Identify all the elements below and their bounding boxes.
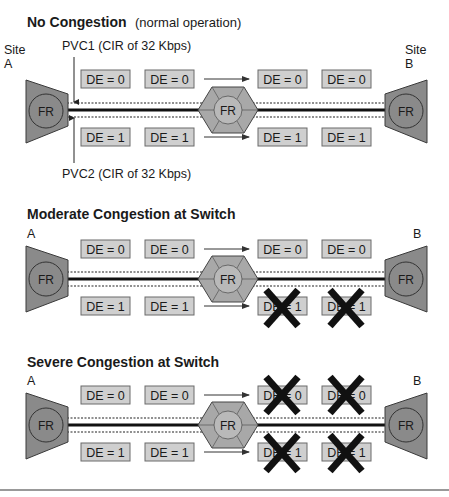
frame-de1: DE = 1 <box>81 297 130 315</box>
frame-de1: DE = 1 <box>145 128 194 146</box>
frame-de0: DE = 0 <box>322 240 371 258</box>
site-b-letter: B <box>413 374 421 388</box>
site-a-letter: A <box>27 227 36 241</box>
svg-text:DE = 0: DE = 0 <box>86 389 125 403</box>
frame-de0: DE = 0 <box>145 240 194 258</box>
svg-text:FR: FR <box>398 419 414 433</box>
frame-de1-dropped: DE = 1 <box>322 290 371 326</box>
svg-text:FR: FR <box>38 419 54 433</box>
router-site-b: FR <box>385 246 427 312</box>
svg-text:DE = 0: DE = 0 <box>150 243 189 257</box>
site-a-label: Site <box>4 43 26 57</box>
site-b-label: Site <box>405 43 427 57</box>
svg-text:DE = 0: DE = 0 <box>86 73 125 87</box>
frame-de0-dropped: DE = 0 <box>322 377 371 413</box>
svg-text:DE = 1: DE = 1 <box>150 300 189 314</box>
frame-relay-switch: FR <box>198 87 258 133</box>
frame-relay-switch: FR <box>198 402 258 448</box>
svg-text:DE = 0: DE = 0 <box>327 73 366 87</box>
svg-text:DE = 1: DE = 1 <box>86 446 125 460</box>
frame-de0: DE = 0 <box>258 240 307 258</box>
router-site-b: FR <box>385 80 427 143</box>
svg-text:DE = 1: DE = 1 <box>263 131 302 145</box>
frame-de0: DE = 0 <box>145 70 194 88</box>
frame-de0: DE = 0 <box>322 70 371 88</box>
svg-text:DE = 0: DE = 0 <box>263 73 302 87</box>
frame-de1: DE = 1 <box>81 128 130 146</box>
svg-text:DE = 1: DE = 1 <box>327 131 366 145</box>
section-severe-congestion: Severe Congestion at Switch A B FR FR FR <box>26 354 427 471</box>
svg-text:FR: FR <box>38 105 54 119</box>
site-b-letter: B <box>405 57 413 71</box>
frame-de0: DE = 0 <box>145 386 194 404</box>
pvc1-label: PVC1 (CIR of 32 Kbps) <box>62 39 191 53</box>
svg-text:DE = 0: DE = 0 <box>150 389 189 403</box>
svg-text:DE = 1: DE = 1 <box>86 300 125 314</box>
svg-text:DE = 1: DE = 1 <box>86 131 125 145</box>
frame-de1: DE = 1 <box>145 297 194 315</box>
frame-de1: DE = 1 <box>81 443 130 461</box>
frame-de0-dropped: DE = 0 <box>258 377 307 413</box>
svg-text:FR: FR <box>220 273 236 287</box>
frame-relay-switch: FR <box>198 256 258 302</box>
frame-de1-dropped: DE = 1 <box>322 435 371 471</box>
svg-text:DE = 1: DE = 1 <box>150 131 189 145</box>
svg-text:FR: FR <box>38 273 54 287</box>
svg-text:FR: FR <box>220 419 236 433</box>
svg-text:DE = 0: DE = 0 <box>86 243 125 257</box>
frame-de0: DE = 0 <box>81 386 130 404</box>
frame-de0: DE = 0 <box>258 70 307 88</box>
section-moderate-congestion: Moderate Congestion at Switch A B FR FR … <box>26 206 427 326</box>
frame-de0: DE = 0 <box>81 70 130 88</box>
section-no-congestion: No Congestion (normal operation) PVC1 (C… <box>4 13 427 181</box>
svg-text:FR: FR <box>220 104 236 118</box>
svg-text:DE = 0: DE = 0 <box>327 243 366 257</box>
router-site-a: FR <box>26 80 68 143</box>
svg-text:DE = 0: DE = 0 <box>263 243 302 257</box>
svg-text:DE = 0: DE = 0 <box>150 73 189 87</box>
section-title: No Congestion (normal operation) <box>27 13 241 30</box>
site-a-letter: A <box>27 374 36 388</box>
site-b-letter: B <box>413 227 421 241</box>
section-title: Moderate Congestion at Switch <box>27 206 235 222</box>
section-title: Severe Congestion at Switch <box>27 354 219 370</box>
router-site-a: FR <box>26 246 68 312</box>
pvc2-label: PVC2 (CIR of 32 Kbps) <box>62 167 191 181</box>
frame-de1: DE = 1 <box>322 128 371 146</box>
frame-de1: DE = 1 <box>145 443 194 461</box>
svg-text:FR: FR <box>398 105 414 119</box>
frame-de0: DE = 0 <box>81 240 130 258</box>
svg-text:DE = 1: DE = 1 <box>150 446 189 460</box>
svg-text:FR: FR <box>398 273 414 287</box>
site-a-letter: A <box>4 57 13 71</box>
router-site-b: FR <box>385 393 427 459</box>
frame-de1-dropped: DE = 1 <box>258 435 307 471</box>
frame-de1: DE = 1 <box>258 128 307 146</box>
frame-de1-dropped: DE = 1 <box>258 290 307 326</box>
router-site-a: FR <box>26 393 68 459</box>
